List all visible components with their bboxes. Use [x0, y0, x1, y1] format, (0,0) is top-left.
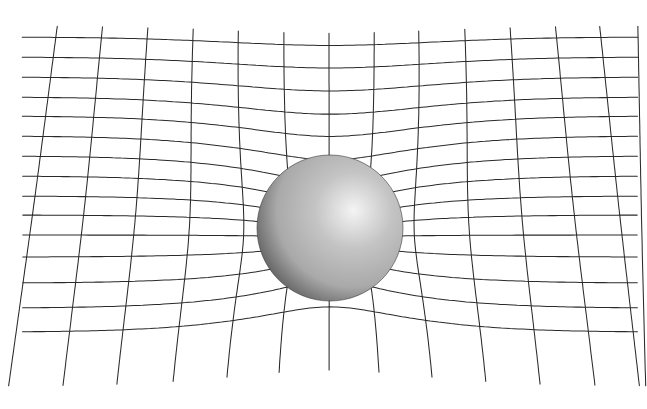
vertical-grid-line-3 [117, 28, 148, 385]
horizontal-grid-line-1 [22, 37, 638, 45]
horizontal-grid-line-3 [22, 77, 637, 91]
spacetime-curvature-diagram [0, 0, 647, 409]
horizontal-grid-line-4 [22, 97, 637, 114]
massive-sphere [257, 155, 403, 301]
horizontal-grid-line-5 [22, 116, 637, 136]
vertical-grid-line-14 [638, 26, 646, 386]
horizontal-grid-line-2 [22, 57, 638, 68]
vertical-grid-line-11 [510, 28, 540, 384]
horizontal-grid-line-15 [23, 307, 638, 332]
warped-grid [0, 0, 647, 409]
